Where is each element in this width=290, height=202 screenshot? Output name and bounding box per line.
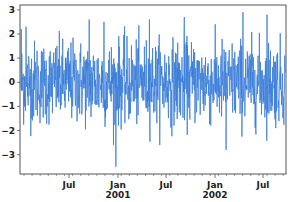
x-tick-label: Jan — [109, 180, 126, 190]
y-tick-label: 1 — [9, 53, 15, 63]
y-axis: 3210−1−2−3 — [1, 5, 20, 160]
x-tick-year-label: 2001 — [105, 190, 130, 200]
x-tick-label: Jul — [159, 180, 173, 190]
plot-area — [21, 12, 285, 167]
y-tick-label: 3 — [9, 5, 15, 15]
y-tick-label: −1 — [1, 101, 15, 111]
y-tick-label: −3 — [1, 150, 15, 160]
y-tick-label: −2 — [1, 126, 15, 136]
x-axis: JulJan2001JulJan2002Jul — [24, 174, 283, 200]
y-tick-label: 2 — [9, 29, 15, 39]
y-tick-label: 0 — [9, 77, 15, 87]
x-tick-label: Jan — [206, 180, 223, 190]
x-tick-label: Jul — [256, 180, 270, 190]
series-line — [21, 12, 285, 167]
x-tick-label: Jul — [62, 180, 76, 190]
x-tick-year-label: 2002 — [202, 190, 227, 200]
line-chart: 3210−1−2−3 JulJan2001JulJan2002Jul — [0, 0, 290, 202]
